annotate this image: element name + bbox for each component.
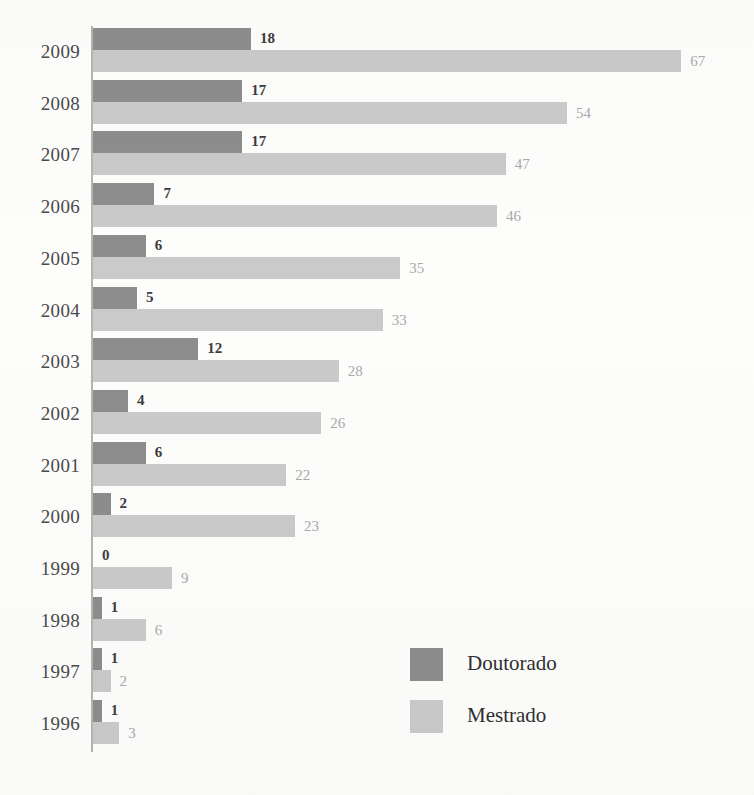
category-label-2007: 2007	[0, 144, 80, 166]
plot-area: 2009186720081754200717472006746200563520…	[0, 0, 754, 795]
value-label-mestrado-2003: 28	[348, 363, 363, 380]
bar-mestrado-2004	[93, 309, 383, 331]
bar-mestrado-2000	[93, 515, 295, 537]
bar-mestrado-2005	[93, 257, 400, 279]
value-label-doutorado-2007: 17	[251, 133, 266, 150]
value-label-mestrado-1996: 3	[128, 725, 136, 742]
value-label-mestrado-2008: 54	[576, 105, 591, 122]
value-label-doutorado-2005: 6	[155, 237, 163, 254]
value-label-mestrado-2004: 33	[392, 312, 407, 329]
bar-mestrado-1999	[93, 567, 172, 589]
bar-doutorado-1996	[93, 700, 102, 722]
bar-doutorado-2003	[93, 338, 198, 360]
value-label-doutorado-2003: 12	[207, 340, 222, 357]
bar-doutorado-2002	[93, 390, 128, 412]
bar-mestrado-1998	[93, 619, 146, 641]
value-label-mestrado-2006: 46	[506, 208, 521, 225]
bar-doutorado-2005	[93, 235, 146, 257]
bar-mestrado-2002	[93, 412, 321, 434]
legend-swatch-doutorado	[410, 648, 443, 681]
bar-doutorado-2008	[93, 80, 242, 102]
category-label-1999: 1999	[0, 558, 80, 580]
value-label-mestrado-1999: 9	[181, 570, 189, 587]
bar-mestrado-2007	[93, 153, 506, 175]
category-label-2000: 2000	[0, 506, 80, 528]
value-label-mestrado-2007: 47	[515, 156, 530, 173]
value-label-doutorado-2006: 7	[163, 185, 171, 202]
bar-doutorado-1998	[93, 597, 102, 619]
bar-doutorado-2007	[93, 131, 242, 153]
bar-mestrado-2003	[93, 360, 339, 382]
category-label-1997: 1997	[0, 661, 80, 683]
bar-mestrado-1997	[93, 670, 111, 692]
legend-label-mestrado: Mestrado	[467, 703, 546, 728]
value-label-doutorado-1997: 1	[111, 650, 119, 667]
category-label-2004: 2004	[0, 300, 80, 322]
value-label-mestrado-2005: 35	[409, 260, 424, 277]
value-label-mestrado-2009: 67	[690, 53, 705, 70]
bar-doutorado-2000	[93, 493, 111, 515]
value-label-mestrado-2000: 23	[304, 518, 319, 535]
value-label-doutorado-2001: 6	[155, 444, 163, 461]
bar-doutorado-2009	[93, 28, 251, 50]
value-label-doutorado-2000: 2	[120, 495, 128, 512]
bar-doutorado-2001	[93, 442, 146, 464]
category-label-2001: 2001	[0, 455, 80, 477]
category-label-2009: 2009	[0, 41, 80, 63]
value-label-doutorado-2008: 17	[251, 82, 266, 99]
value-label-doutorado-1996: 1	[111, 702, 119, 719]
bar-doutorado-1997	[93, 648, 102, 670]
category-label-2005: 2005	[0, 248, 80, 270]
category-label-2006: 2006	[0, 196, 80, 218]
value-label-doutorado-1999: 0	[102, 547, 110, 564]
category-label-1996: 1996	[0, 713, 80, 735]
bar-mestrado-1996	[93, 722, 119, 744]
bar-chart: 2009186720081754200717472006746200563520…	[0, 0, 754, 795]
bar-mestrado-2001	[93, 464, 286, 486]
legend-swatch-mestrado	[410, 700, 443, 733]
value-label-mestrado-1998: 6	[155, 622, 163, 639]
value-label-mestrado-2001: 22	[295, 467, 310, 484]
value-label-doutorado-1998: 1	[111, 599, 119, 616]
bar-mestrado-2009	[93, 50, 681, 72]
value-label-mestrado-1997: 2	[120, 673, 128, 690]
category-label-2002: 2002	[0, 403, 80, 425]
bar-mestrado-2006	[93, 205, 497, 227]
value-label-doutorado-2004: 5	[146, 289, 154, 306]
value-label-doutorado-2002: 4	[137, 392, 145, 409]
legend-label-doutorado: Doutorado	[467, 651, 557, 676]
category-label-2003: 2003	[0, 351, 80, 373]
bar-mestrado-2008	[93, 102, 567, 124]
value-label-mestrado-2002: 26	[330, 415, 345, 432]
category-label-1998: 1998	[0, 610, 80, 632]
value-label-doutorado-2009: 18	[260, 30, 275, 47]
bar-doutorado-2006	[93, 183, 154, 205]
category-label-2008: 2008	[0, 93, 80, 115]
bar-doutorado-2004	[93, 287, 137, 309]
